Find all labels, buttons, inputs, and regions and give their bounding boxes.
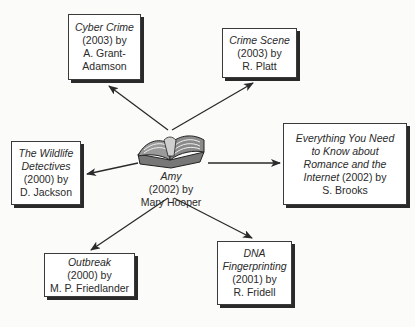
book-author: Adamson — [82, 60, 126, 73]
book-title: The Wildlife — [19, 147, 74, 160]
open-book-icon — [134, 126, 208, 170]
book-year: (2000) by — [67, 269, 111, 282]
center-year: (2002) by — [149, 183, 193, 195]
center-caption: Amy (2002) by Mary Hooper — [130, 170, 212, 209]
center-title: Amy — [130, 170, 212, 183]
book-title: Detectives — [21, 160, 70, 173]
book-title: Outbreak — [68, 256, 111, 269]
book-title: Everything You Need — [296, 132, 394, 145]
center-author: Mary Hooper — [130, 196, 212, 209]
book-title: Fingerprinting — [222, 260, 286, 273]
arrow-to-cyber-crime — [109, 86, 168, 130]
book-node-dna-fingerprinting: DNA Fingerprinting (2001) by R. Fridell — [217, 241, 292, 305]
book-node-outbreak: Outbreak (2000) by M. P. Friedlander — [44, 253, 135, 297]
arrow-to-crime-scene — [172, 83, 253, 130]
book-title: Crime Scene — [229, 34, 290, 47]
book-node-crime-scene: Crime Scene (2003) by R. Platt — [222, 28, 297, 78]
center-book-node: Amy (2002) by Mary Hooper — [130, 126, 212, 209]
book-node-cyber-crime: Cyber Crime (2003) by A. Grant- Adamson — [68, 14, 141, 80]
book-title: Cyber Crime — [75, 21, 134, 34]
book-author: R. Platt — [242, 60, 276, 73]
book-node-everything-you-need: Everything You Need to Know about Romanc… — [283, 123, 407, 205]
book-author: A. Grant- — [83, 47, 126, 60]
book-year: (2002) by — [339, 171, 386, 183]
book-year: (2000) by — [24, 173, 68, 186]
book-title: to Know about — [311, 145, 378, 158]
book-author: D. Jackson — [20, 186, 72, 199]
book-year: (2003) by — [82, 34, 126, 47]
book-author: S. Brooks — [322, 184, 368, 197]
book-title: DNA — [243, 247, 265, 260]
book-title: Internet — [304, 171, 340, 183]
book-year: (2003) by — [237, 47, 281, 60]
book-node-wildlife-detectives: The Wildlife Detectives (2000) by D. Jac… — [11, 141, 81, 205]
book-author: M. P. Friedlander — [50, 282, 129, 295]
book-year: (2001) by — [232, 273, 276, 286]
book-title: Romance and the — [304, 158, 387, 171]
book-author: R. Fridell — [233, 286, 275, 299]
